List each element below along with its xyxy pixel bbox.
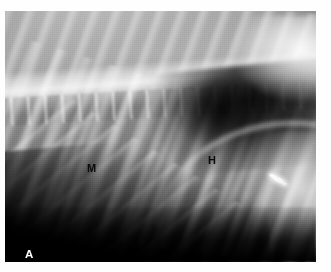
radiograph-image: M H A	[5, 11, 316, 262]
figure-page: M H A	[0, 0, 331, 272]
annotation-label-m: M	[87, 163, 96, 174]
panel-label: A	[25, 249, 33, 261]
vignette-layer	[5, 11, 316, 262]
annotation-label-h: H	[208, 155, 216, 166]
